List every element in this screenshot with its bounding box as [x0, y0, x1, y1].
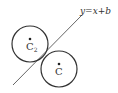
center-point-c2	[29, 38, 32, 41]
center-point-c	[58, 63, 61, 66]
label-c: C	[55, 66, 63, 77]
tangent-circles-diagram: C2 C y=x+b	[0, 0, 118, 93]
line-equation-label: y=x+b	[79, 6, 111, 16]
label-c2: C2	[26, 41, 38, 53]
